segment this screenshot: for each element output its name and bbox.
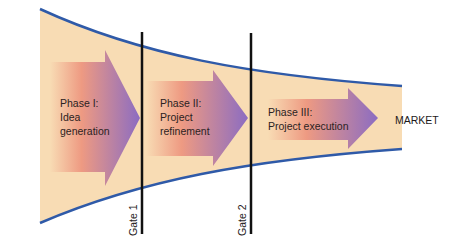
phase-3-line2: Project execution xyxy=(268,120,349,132)
phase-1-line2: Idea xyxy=(60,111,81,123)
gate-2-label: Gate 2 xyxy=(236,204,248,236)
phase-1-line3: generation xyxy=(60,125,110,137)
phase-2-line3: refinement xyxy=(160,125,210,137)
phase-1-title: Phase I: xyxy=(60,97,99,109)
market-label: MARKET xyxy=(395,114,439,126)
phase-3-title: Phase III: xyxy=(268,106,312,118)
phase-2-line2: Project xyxy=(160,111,193,123)
phase-2-title: Phase II: xyxy=(160,97,201,109)
gate-1-label: Gate 1 xyxy=(127,204,139,236)
stage-gate-funnel-diagram: Phase I: Idea generation Phase II: Proje… xyxy=(0,0,473,250)
